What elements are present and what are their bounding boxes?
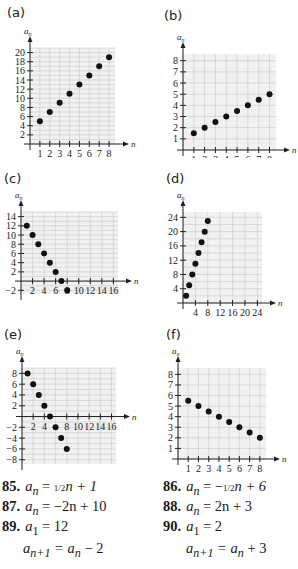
svg-text:1: 1	[191, 154, 196, 158]
data-point	[25, 370, 31, 376]
chart-f: ann1234567812345678	[148, 346, 298, 474]
exercise-number: 90.	[163, 518, 181, 534]
data-point	[58, 278, 64, 284]
svg-text:4: 4	[42, 421, 47, 432]
exercise-number: 85.	[2, 478, 20, 494]
data-point	[267, 91, 273, 97]
data-point	[234, 108, 240, 114]
equation-part: = a	[54, 540, 75, 556]
equation-part: + 3	[244, 540, 267, 556]
svg-text:1: 1	[37, 148, 42, 159]
data-point	[64, 287, 70, 293]
chart-e: ann24810121416−8−6−4−22468	[0, 346, 150, 471]
svg-text:5: 5	[173, 89, 178, 100]
data-point	[236, 424, 242, 430]
data-point	[58, 435, 64, 441]
chart-b: ann1234567812345678	[148, 28, 298, 158]
svg-text:3: 3	[168, 422, 173, 433]
svg-text:8: 8	[64, 421, 69, 432]
svg-text:2: 2	[196, 463, 201, 474]
subscript: n	[32, 504, 38, 518]
svg-text:8: 8	[267, 154, 272, 158]
data-point	[223, 114, 229, 120]
exercise-85: 85.an = 1/2n + 1	[2, 478, 97, 499]
svg-text:6: 6	[237, 463, 242, 474]
svg-text:4: 4	[216, 463, 221, 474]
data-point	[106, 54, 112, 60]
data-point	[47, 260, 53, 266]
data-point	[35, 241, 41, 247]
subscript: 1	[193, 524, 199, 538]
svg-text:3: 3	[57, 148, 62, 159]
svg-text:5: 5	[77, 148, 82, 159]
data-point	[36, 392, 42, 398]
svg-text:10: 10	[73, 421, 83, 432]
data-point	[183, 293, 189, 299]
svg-text:20: 20	[15, 47, 25, 58]
exercise-number: 88.	[163, 498, 181, 514]
exercise-86: 86.an = −1/2n + 6	[163, 478, 266, 499]
equation-part: = a	[217, 540, 238, 556]
svg-text:14: 14	[6, 211, 16, 222]
svg-text:4: 4	[193, 307, 198, 318]
data-point	[195, 403, 201, 409]
data-point	[76, 82, 82, 88]
svg-text:n: n	[282, 454, 287, 464]
data-point	[195, 250, 201, 256]
exercise-89: 89.a1 = 12	[2, 518, 68, 539]
data-point	[247, 430, 253, 436]
svg-text:16: 16	[108, 285, 118, 296]
svg-text:2: 2	[168, 432, 173, 443]
data-point	[216, 414, 222, 420]
fraction: 1/2	[54, 483, 66, 493]
data-point	[185, 398, 191, 404]
chart-a: ann123456782468101214161820	[0, 26, 150, 166]
svg-text:16: 16	[107, 421, 117, 432]
data-point	[212, 119, 218, 125]
data-point	[86, 72, 92, 78]
svg-text:n: n	[292, 145, 297, 155]
svg-text:6: 6	[12, 379, 17, 390]
svg-text:12: 12	[215, 307, 225, 318]
svg-text:6: 6	[173, 78, 178, 89]
svg-text:5: 5	[168, 401, 173, 412]
exercise-87: 87.an = −2n + 10	[2, 498, 106, 519]
svg-text:2: 2	[202, 154, 207, 158]
equation-part: n + 6	[235, 478, 267, 494]
data-point	[30, 381, 36, 387]
svg-text:10: 10	[74, 285, 84, 296]
fraction: 1/2	[223, 483, 235, 493]
svg-text:an: an	[16, 346, 24, 357]
svg-text:n: n	[134, 276, 139, 286]
equation-part: =	[42, 478, 54, 494]
data-point	[67, 91, 73, 97]
svg-text:−2: −2	[6, 422, 17, 433]
data-point	[189, 271, 195, 277]
svg-text:6: 6	[245, 154, 250, 158]
data-point	[256, 97, 262, 103]
data-point	[192, 261, 198, 267]
subscript: n+1	[30, 546, 50, 560]
svg-text:n: n	[278, 298, 283, 308]
svg-text:6: 6	[168, 390, 173, 401]
svg-text:2: 2	[12, 400, 17, 411]
svg-text:4: 4	[224, 154, 229, 158]
svg-text:16: 16	[168, 240, 178, 251]
svg-text:4: 4	[173, 100, 178, 111]
panel-label-f: (f)	[166, 327, 181, 342]
svg-text:7: 7	[247, 463, 252, 474]
exercise-number: 89.	[2, 518, 20, 534]
data-point	[64, 446, 70, 452]
exercise-89-line-2: an+1 = an − 2	[23, 540, 104, 561]
svg-text:20: 20	[240, 307, 250, 318]
svg-text:an: an	[177, 190, 185, 201]
data-point	[37, 118, 43, 124]
svg-text:2: 2	[30, 285, 35, 296]
data-point	[226, 419, 232, 425]
svg-text:6: 6	[53, 285, 58, 296]
panel-label-d: (d)	[166, 171, 184, 186]
exercise-list: 85.an = 1/2n + 1 86.an = −1/2n + 6 87.an…	[0, 476, 298, 569]
svg-text:1: 1	[173, 133, 178, 144]
exercise-number: 86.	[163, 478, 181, 494]
svg-text:24: 24	[252, 307, 262, 318]
